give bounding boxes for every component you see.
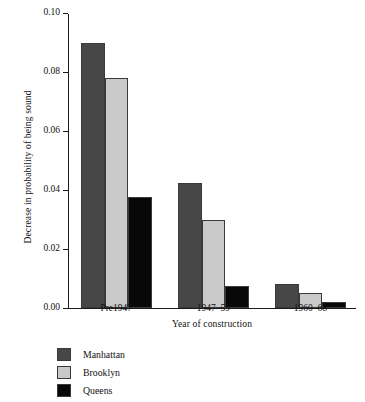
- legend-swatch-queens: [57, 384, 71, 397]
- x-axis-tick-label: 1960–68: [294, 303, 327, 313]
- bar: [105, 78, 129, 308]
- y-axis-tick: 0.00: [63, 308, 68, 309]
- y-axis-tick: 0.10: [63, 13, 68, 14]
- bar: [178, 183, 202, 308]
- y-axis-tick: 0.02: [63, 249, 68, 250]
- y-axis-tick-label: 0.06: [43, 125, 60, 135]
- bar-chart: Decrease in probability of being sound 0…: [0, 0, 365, 402]
- x-axis-tick-label: 1947–59: [197, 303, 230, 313]
- bar: [202, 220, 226, 309]
- legend: ManhattanBrooklynQueens: [57, 345, 125, 399]
- plot-area: 0.000.020.040.060.080.10: [68, 14, 356, 309]
- y-axis-title: Decrease in probability of being sound: [23, 47, 33, 287]
- y-axis-tick: 0.04: [63, 190, 68, 191]
- legend-label: Brooklyn: [83, 367, 120, 378]
- legend-item: Brooklyn: [57, 363, 125, 381]
- bar: [81, 43, 105, 309]
- legend-swatch-manhattan: [57, 348, 71, 361]
- legend-item: Manhattan: [57, 345, 125, 363]
- y-axis-line: [68, 14, 69, 309]
- y-axis-tick-label: 0.02: [43, 243, 60, 253]
- legend-label: Queens: [83, 385, 112, 396]
- x-axis-title: Year of construction: [68, 319, 356, 329]
- legend-item: Queens: [57, 381, 125, 399]
- y-axis-tick-label: 0.04: [43, 184, 60, 194]
- legend-swatch-brooklyn: [57, 366, 71, 379]
- y-axis-tick: 0.06: [63, 131, 68, 132]
- y-axis-tick-label: 0.00: [43, 302, 60, 312]
- y-axis-tick: 0.08: [63, 72, 68, 73]
- legend-label: Manhattan: [83, 349, 125, 360]
- x-axis-tick-label: Pre1947: [100, 303, 132, 313]
- y-axis-tick-label: 0.08: [43, 66, 60, 76]
- bar: [128, 197, 152, 308]
- y-axis-tick-label: 0.10: [43, 7, 60, 17]
